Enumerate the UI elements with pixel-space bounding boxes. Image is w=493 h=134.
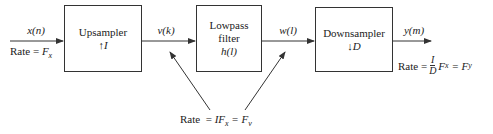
signal-y-label: y(m) <box>397 24 431 36</box>
upsampler-title: Upsampler <box>79 26 127 39</box>
filter-title-line2: filter <box>218 32 239 45</box>
intermediate-rate-label: Rate = IFx = Fv <box>180 113 252 130</box>
input-rate-label: Rate = Fx <box>10 45 52 62</box>
filter-impulse-response: h(l) <box>221 45 237 58</box>
signal-v-label: v(k) <box>146 24 186 36</box>
lowpass-filter-block: Lowpass filter h(l) <box>196 5 262 72</box>
rate-fraction: ID <box>429 55 436 76</box>
filter-title-line1: Lowpass <box>209 19 248 32</box>
upsampler-block: Upsampler ↑I <box>64 5 142 72</box>
output-rate-label: Rate = ID Fx = Fy <box>398 55 472 76</box>
downsampler-block: Downsampler ↓D <box>315 7 393 72</box>
downsampler-title: Downsampler <box>323 27 385 40</box>
upsampler-factor: ↑I <box>98 39 107 52</box>
downsampler-factor: ↓D <box>347 40 360 53</box>
signal-x-label: x(n) <box>18 24 54 36</box>
signal-w-label: w(l) <box>268 24 308 36</box>
